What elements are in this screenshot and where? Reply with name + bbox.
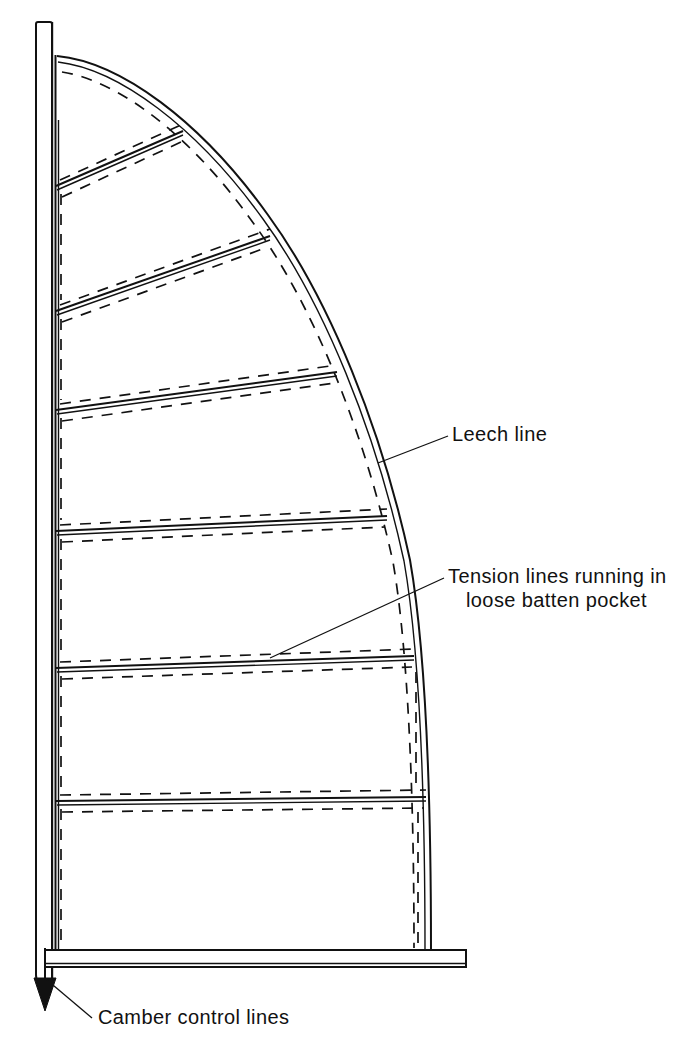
label-leech-line: Leech line [452, 423, 547, 445]
mast [36, 22, 53, 983]
label-tension-lines-line2: loose batten pocket [466, 589, 647, 611]
label-camber-control-lines: Camber control lines [98, 1006, 289, 1028]
batten-5 [56, 649, 414, 791]
batten-4 [56, 509, 387, 658]
sail-diagram-figure: Leech line Tension lines running in loos… [0, 0, 691, 1042]
leech-pocket-stitching [416, 672, 418, 945]
camber-control-lines-leader [47, 980, 92, 1018]
batten-2 [56, 229, 270, 400]
boom [45, 950, 466, 967]
batten-3 [56, 365, 337, 520]
leech-edge [57, 56, 431, 950]
label-tension-lines-line1: Tension lines running in [448, 565, 667, 587]
batten-6 [56, 790, 426, 947]
sail-line-drawing: Leech line Tension lines running in loos… [0, 0, 691, 1042]
leech-line-leader [378, 436, 448, 463]
